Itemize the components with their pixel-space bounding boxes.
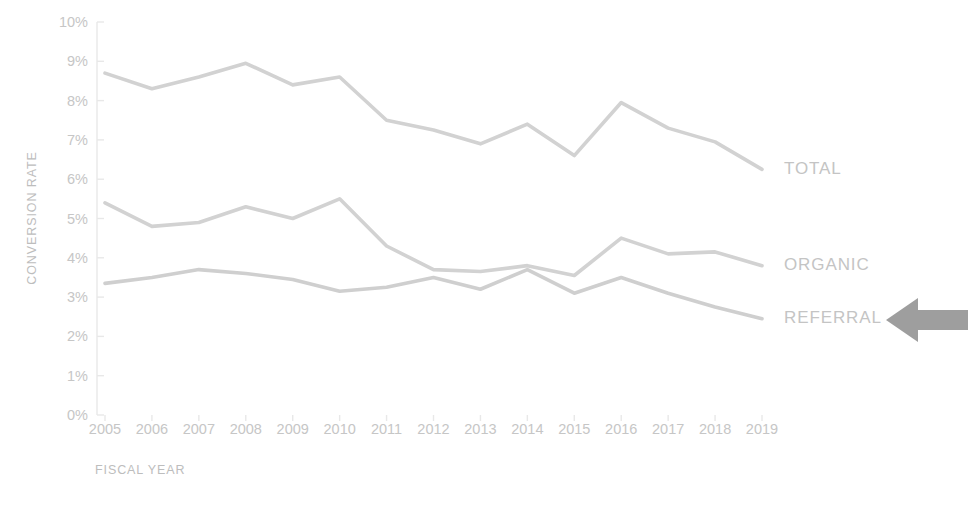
x-tick-label: 2016	[605, 421, 637, 437]
y-tick-label: 3%	[67, 289, 88, 305]
x-tick-label: 2015	[558, 421, 590, 437]
x-axis-title-group: FISCAL YEAR	[95, 463, 186, 477]
y-axis-title-group: CONVERSION RATE	[25, 151, 39, 284]
series-label-total: TOTAL	[784, 159, 842, 178]
y-axis-title: CONVERSION RATE	[25, 151, 39, 284]
y-tick-label: 0%	[67, 407, 88, 423]
series-label-organic: ORGANIC	[784, 255, 870, 274]
y-tick-label: 10%	[59, 14, 88, 30]
left-arrow-icon	[886, 298, 968, 342]
x-tick-label: 2013	[464, 421, 496, 437]
y-tick-label: 7%	[67, 132, 88, 148]
conversion-rate-line-chart: CONVERSION RATE FISCAL YEAR 0%1%2%3%4%5%…	[0, 0, 973, 507]
x-tick-label: 2018	[699, 421, 731, 437]
x-tick-label: 2012	[417, 421, 449, 437]
series-line-referral	[105, 270, 762, 319]
x-tick-label: 2009	[277, 421, 309, 437]
x-tick-label: 2005	[89, 421, 121, 437]
x-tick-label: 2017	[652, 421, 684, 437]
y-tick-label: 5%	[67, 211, 88, 227]
x-axis-tick-labels: 2005200620072008200920102011201220132014…	[89, 415, 778, 437]
y-tick-label: 1%	[67, 368, 88, 384]
series-line-organic	[105, 199, 762, 276]
x-tick-label: 2007	[183, 421, 215, 437]
x-axis-title: FISCAL YEAR	[95, 463, 186, 477]
y-tick-label: 4%	[67, 250, 88, 266]
x-tick-label: 2006	[136, 421, 168, 437]
x-tick-label: 2011	[371, 421, 402, 437]
y-tick-label: 9%	[67, 53, 88, 69]
x-tick-label: 2019	[746, 421, 778, 437]
series-lines-group	[105, 63, 762, 318]
y-tick-label: 6%	[67, 171, 88, 187]
y-tick-label: 2%	[67, 328, 88, 344]
series-labels-group: TOTALORGANICREFERRAL	[784, 159, 882, 327]
y-tick-label: 8%	[67, 93, 88, 109]
referral-callout-arrow	[886, 298, 968, 342]
x-tick-label: 2008	[230, 421, 262, 437]
x-tick-label: 2010	[324, 421, 356, 437]
series-line-total	[105, 63, 762, 169]
series-label-referral: REFERRAL	[784, 308, 882, 327]
x-tick-label: 2014	[511, 421, 543, 437]
chart-canvas: CONVERSION RATE FISCAL YEAR 0%1%2%3%4%5%…	[0, 0, 973, 507]
